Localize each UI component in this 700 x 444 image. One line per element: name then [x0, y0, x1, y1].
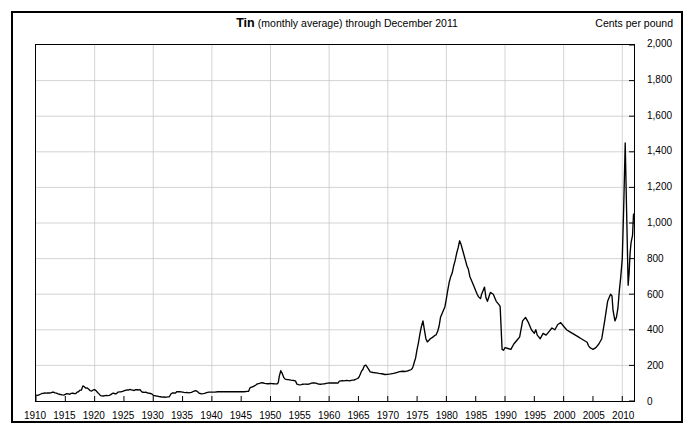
y-axis-tick-label: 1,400	[647, 146, 672, 156]
plot-area-wrapper: 02004006008001,0001,2001,4001,6001,8002,…	[35, 44, 635, 402]
x-axis-tick-label: 2010	[612, 410, 634, 422]
chart-header: Tin (monthly average) through December 2…	[13, 13, 681, 35]
x-axis-tick-label: 1970	[377, 410, 399, 422]
price-line-series	[36, 143, 634, 397]
page-title: Tin (monthly average) through December 2…	[13, 16, 681, 30]
x-axis-ticks	[36, 396, 622, 401]
x-axis-tick-label: 2000	[553, 410, 575, 422]
y-axis-tick-label: 800	[647, 254, 664, 264]
y-axis-tick-label: 2,000	[647, 39, 672, 49]
y-axis-tick-label: 1,600	[647, 111, 672, 121]
y-axis-labels: 02004006008001,0001,2001,4001,6001,8002,…	[639, 44, 699, 402]
x-axis-tick-label: 1915	[53, 410, 75, 422]
chart-figure: Tin (monthly average) through December 2…	[11, 11, 683, 423]
horizontal-gridlines	[36, 81, 634, 366]
chart-title-commodity: Tin	[236, 16, 255, 30]
plot-area	[35, 44, 635, 402]
y-axis-tick-label: 200	[647, 361, 664, 371]
x-axis-tick-label: 1980	[436, 410, 458, 422]
y-axis-tick-label: 1,000	[647, 218, 672, 228]
y-axis-tick-label: 1,800	[647, 75, 672, 85]
x-axis-tick-label: 1940	[200, 410, 222, 422]
x-axis-tick-label: 1985	[465, 410, 487, 422]
x-axis-tick-label: 1960	[318, 410, 340, 422]
chart-title-detail: (monthly average) through December 2011	[258, 17, 458, 29]
chart-canvas	[36, 45, 634, 401]
x-axis-tick-label: 1990	[494, 410, 516, 422]
x-axis-tick-label: 1945	[230, 410, 252, 422]
x-axis-labels: 1910191519201925193019351940194519501955…	[35, 410, 635, 426]
y-axis-tick-label: 0	[647, 397, 653, 407]
x-axis-tick-label: 1910	[24, 410, 46, 422]
y-axis-unit-label: Cents per pound	[595, 17, 673, 30]
x-axis-tick-label: 1930	[142, 410, 164, 422]
x-axis-tick-label: 1955	[289, 410, 311, 422]
x-axis-tick-label: 1925	[112, 410, 134, 422]
x-axis-tick-label: 2005	[583, 410, 605, 422]
y-axis-tick-label: 400	[647, 325, 664, 335]
x-axis-tick-label: 1950	[259, 410, 281, 422]
x-axis-tick-label: 1920	[83, 410, 105, 422]
x-axis-tick-label: 1965	[347, 410, 369, 422]
x-axis-tick-label: 1935	[171, 410, 193, 422]
y-axis-tick-label: 600	[647, 290, 664, 300]
x-axis-tick-label: 1975	[406, 410, 428, 422]
y-axis-tick-label: 1,200	[647, 182, 672, 192]
x-axis-tick-label: 1995	[524, 410, 546, 422]
